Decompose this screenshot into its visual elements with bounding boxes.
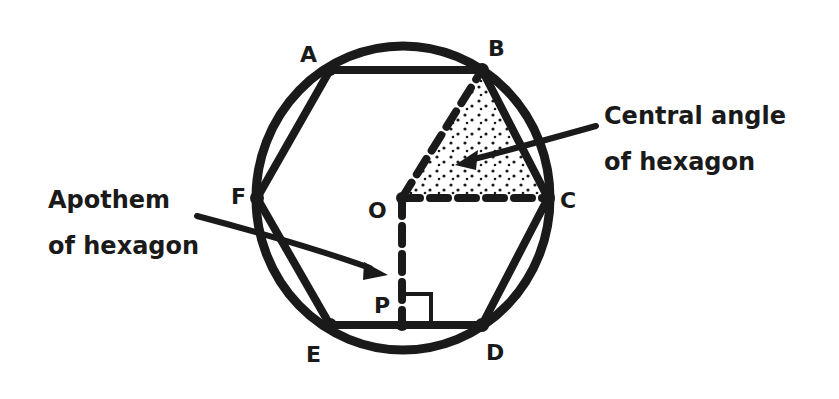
label-d: D — [486, 340, 504, 365]
label-p: P — [374, 293, 390, 318]
label-e: E — [306, 342, 321, 367]
central-angle-label-line2: of hexagon — [604, 148, 755, 176]
apothem-arrow-icon — [197, 216, 388, 280]
label-a: A — [300, 42, 317, 67]
hexagon-diagram: A B C D E F O P Central angle of hexagon… — [0, 0, 839, 399]
right-angle-marker — [402, 294, 431, 325]
label-o: O — [368, 198, 387, 223]
label-f: F — [231, 184, 246, 209]
label-b: B — [488, 36, 505, 61]
label-c: C — [560, 188, 576, 213]
apothem-label-line1: Apothem — [48, 186, 170, 214]
central-angle-region — [402, 70, 548, 198]
central-angle-label-line1: Central angle — [604, 102, 786, 130]
apothem-label-line2: of hexagon — [48, 232, 199, 260]
